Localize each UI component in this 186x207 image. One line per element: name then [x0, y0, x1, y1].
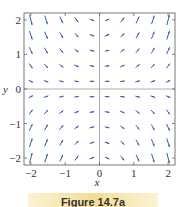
y-tick-labels: −2−1012: [9, 14, 21, 164]
x-tick-label: −2: [25, 167, 37, 179]
x-tick-label: 2: [165, 167, 171, 179]
vector-field-plot: −2−1012 −2−1012 x y: [0, 0, 186, 190]
x-tick-label: −1: [59, 167, 71, 179]
y-tick-label: −1: [9, 118, 21, 130]
y-axis-label: y: [2, 83, 8, 95]
y-tick-label: 2: [16, 14, 22, 26]
figure-caption: Figure 14.7a: [28, 193, 158, 207]
x-tick-label: 1: [131, 167, 137, 179]
y-tick-label: 1: [16, 48, 22, 60]
x-axis-label: x: [94, 176, 100, 188]
y-tick-label: 0: [16, 83, 22, 95]
y-tick-label: −2: [9, 152, 21, 164]
